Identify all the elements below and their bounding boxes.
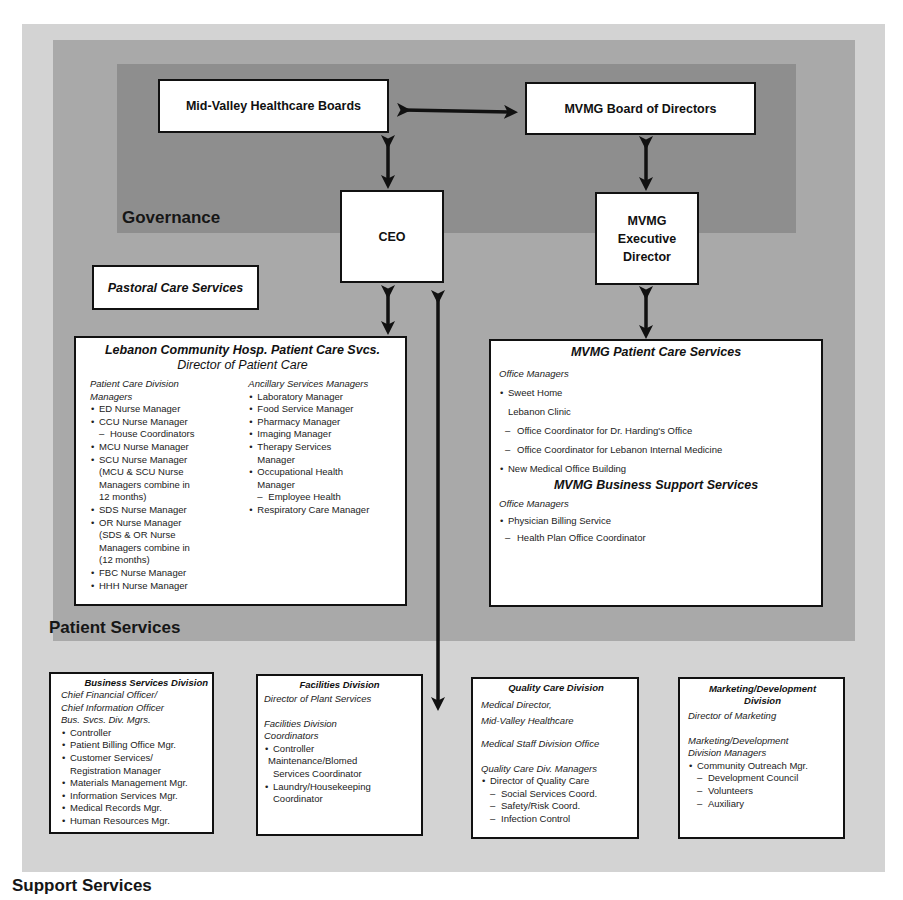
list-item: Health Plan Office Coordinator <box>499 529 813 546</box>
list-item: 12 months) <box>90 491 248 504</box>
mvmg-patient-care-heading: Office Managers <box>499 364 813 383</box>
list-item: Registration Manager <box>61 765 208 778</box>
list-item: Manager <box>248 479 395 492</box>
list-item: Medical Records Mgr. <box>61 802 208 815</box>
marketing-heading-2: Division Managers <box>688 747 837 760</box>
quality-care-heading: Quality Care Div. Managers <box>481 763 631 776</box>
list-item: Customer Services/ <box>61 752 208 765</box>
list-item: Maintenance/Blomed <box>264 755 415 768</box>
list-item: SDS Nurse Manager <box>90 504 248 517</box>
business-services-heading-3: Bus. Svcs. Div. Mgrs. <box>61 714 208 727</box>
lebanon-subtitle: Director of Patient Care <box>90 358 395 372</box>
list-item: Community Outreach Mgr. <box>688 760 837 773</box>
business-services-list: Controller Patient Billing Office Mgr. C… <box>61 727 208 828</box>
list-item: (12 months) <box>90 554 248 567</box>
list-item: Sweet Home <box>499 383 813 402</box>
list-item: Director of Quality Care <box>481 775 631 788</box>
list-item: New Medical Office Building <box>499 459 813 478</box>
marketing-development-division-box: Marketing/Development Division Director … <box>678 677 845 839</box>
facilities-title: Facilities Division <box>264 679 415 691</box>
list-item: SCU Nurse Manager <box>90 454 248 467</box>
list-item: FBC Nurse Manager <box>90 567 248 580</box>
mvmg-business-support-list: Physician Billing Service Health Plan Of… <box>499 512 813 546</box>
list-item: Office Coordinator for Dr. Harding's Off… <box>499 421 813 440</box>
list-item: Safety/Risk Coord. <box>481 800 631 813</box>
list-item: Occupational Health <box>248 466 395 479</box>
list-item: Social Services Coord. <box>481 788 631 801</box>
list-item: Employee Health <box>248 491 395 504</box>
marketing-list: Community Outreach Mgr. Development Coun… <box>688 760 837 810</box>
list-item: ED Nurse Manager <box>90 403 248 416</box>
list-item: Imaging Manager <box>248 428 395 441</box>
marketing-title-1: Marketing/Development <box>688 683 837 695</box>
list-item: Lebanon Clinic <box>499 402 813 421</box>
list-item: (SDS & OR Nurse <box>90 529 248 542</box>
business-services-title: Business Services Division <box>61 677 208 689</box>
facilities-heading-1: Facilities Division <box>264 718 415 731</box>
marketing-director: Director of Marketing <box>688 710 837 723</box>
list-item: Development Council <box>688 772 837 785</box>
quality-care-director-2: Mid-Valley Healthcare <box>481 713 631 729</box>
quality-care-director-1: Medical Director, <box>481 697 631 713</box>
list-item: Infection Control <box>481 813 631 826</box>
list-item: Controller <box>61 727 208 740</box>
list-item: Patient Billing Office Mgr. <box>61 739 208 752</box>
list-item: (MCU & SCU Nurse <box>90 466 248 479</box>
list-item: MCU Nurse Manager <box>90 441 248 454</box>
business-services-division-box: Business Services Division Chief Financi… <box>49 672 214 834</box>
quality-care-office: Medical Staff Division Office <box>481 738 631 751</box>
list-item: OR Nurse Manager <box>90 517 248 530</box>
business-services-heading-2: Chief Information Officer <box>61 702 208 715</box>
list-item: Controller <box>264 743 415 756</box>
list-item: House Coordinators <box>90 428 248 441</box>
list-item: Volunteers <box>688 785 837 798</box>
mvmg-patient-care-list: Sweet Home Lebanon Clinic Office Coordin… <box>499 383 813 478</box>
list-item: Services Coordinator <box>264 768 415 781</box>
list-item: Coordinator <box>264 793 415 806</box>
lebanon-title: Lebanon Community Hosp. Patient Care Svc… <box>90 343 395 357</box>
double-arrow-boards-horizontal <box>404 110 511 112</box>
facilities-list: Controller Maintenance/Blomed Services C… <box>264 743 415 806</box>
list-item: Laboratory Manager <box>248 391 395 404</box>
patient-care-division-column: Patient Care Division Managers ED Nurse … <box>90 378 248 592</box>
facilities-director: Director of Plant Services <box>264 693 415 706</box>
mvmg-patient-care-title: MVMG Patient Care Services <box>499 345 813 359</box>
list-item: Pharmacy Manager <box>248 416 395 429</box>
list-item: Auxiliary <box>688 798 837 811</box>
ancillary-services-heading: Ancillary Services Managers <box>248 378 395 391</box>
list-item: Information Services Mgr. <box>61 790 208 803</box>
mvmg-patient-care-box: MVMG Patient Care Services Office Manage… <box>489 339 823 607</box>
quality-care-division-box: Quality Care Division Medical Director, … <box>471 677 639 839</box>
ancillary-managers-list: Laboratory Manager Food Service Manager … <box>248 391 395 517</box>
list-item: Managers combine in <box>90 479 248 492</box>
facilities-division-box: Facilities Division Director of Plant Se… <box>256 674 423 836</box>
marketing-heading-1: Marketing/Development <box>688 735 837 748</box>
list-item: HHH Nurse Manager <box>90 580 248 593</box>
ancillary-services-column: Ancillary Services Managers Laboratory M… <box>248 378 395 592</box>
list-item: Human Resources Mgr. <box>61 815 208 828</box>
list-item: Respiratory Care Manager <box>248 504 395 517</box>
list-item: Laundry/Housekeeping <box>264 781 415 794</box>
list-item: Managers combine in <box>90 542 248 555</box>
patient-care-division-heading-2: Managers <box>90 391 248 404</box>
mvmg-business-support-title: MVMG Business Support Services <box>499 478 813 492</box>
list-item: CCU Nurse Manager <box>90 416 248 429</box>
marketing-title-2: Division <box>688 695 837 707</box>
mvmg-business-support-heading: Office Managers <box>499 495 813 512</box>
quality-care-title: Quality Care Division <box>481 682 631 694</box>
patient-care-division-heading-1: Patient Care Division <box>90 378 248 391</box>
list-item: Materials Management Mgr. <box>61 777 208 790</box>
list-item: Manager <box>248 454 395 467</box>
quality-care-list: Director of Quality Care Social Services… <box>481 775 631 825</box>
business-services-heading-1: Chief Financial Officer/ <box>61 689 208 702</box>
lebanon-patient-care-box: Lebanon Community Hosp. Patient Care Svc… <box>74 336 407 606</box>
list-item: Physician Billing Service <box>499 512 813 529</box>
list-item: Food Service Manager <box>248 403 395 416</box>
facilities-heading-2: Coordinators <box>264 730 415 743</box>
patient-care-managers-list: ED Nurse Manager CCU Nurse Manager House… <box>90 403 248 592</box>
list-item: Therapy Services <box>248 441 395 454</box>
list-item: Office Coordinator for Lebanon Internal … <box>499 440 813 459</box>
